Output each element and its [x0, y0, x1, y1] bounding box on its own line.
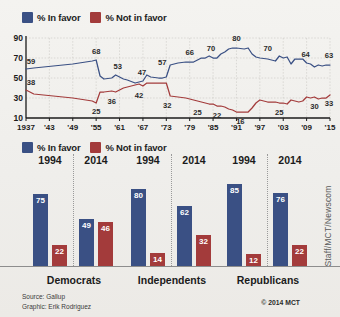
bar-group-label: Democrats	[30, 274, 118, 286]
agency-credit: Staff/MCT/Newscom	[322, 185, 332, 266]
data-point-label: 38	[27, 78, 35, 87]
x-axis-tick-label: '61	[114, 123, 125, 132]
legend-swatch-in-favor	[22, 12, 33, 23]
clipped-headline	[22, 0, 312, 6]
copyright-notice: © 2014 MCT	[261, 299, 300, 306]
data-point-label: 47	[138, 68, 146, 77]
x-axis-tick-label: '09	[301, 123, 312, 132]
bar-value-label: 32	[196, 237, 211, 246]
data-point-label: 32	[163, 101, 171, 110]
bar-year-column-2014: 20147622	[270, 170, 310, 266]
bar-in-favor[interactable]: 49	[79, 219, 94, 266]
line-chart-legend: % In favor % Not in favor	[22, 12, 166, 23]
data-point-label: 68	[92, 47, 100, 56]
data-point-label: 57	[158, 58, 166, 67]
bar-chart-baseline	[0, 266, 340, 267]
bar-group-label: Republicans	[224, 274, 312, 286]
bar-value-label: 22	[292, 247, 307, 256]
bar-not-in-favor[interactable]: 22	[52, 245, 67, 266]
y-axis-tick-label: 70	[14, 53, 24, 63]
bar-year-label: 1994	[30, 154, 70, 166]
bar-in-favor[interactable]: 85	[227, 184, 242, 266]
data-point-label: 42	[135, 91, 143, 100]
bar-group-independents: 1994801420146232Independents	[128, 170, 216, 266]
line-chart: 90705030101937'43'49'55'61'67'73'79'85'9…	[0, 30, 340, 136]
line-series-not-in-favor	[26, 83, 330, 112]
data-point-label: 80	[232, 34, 240, 43]
legend-swatch-not-in-favor	[90, 12, 101, 23]
bar-not-in-favor[interactable]: 22	[292, 245, 307, 266]
bar-value-label: 80	[131, 191, 146, 200]
data-point-label: 25	[92, 107, 101, 116]
year-divider	[73, 154, 74, 266]
bar-year-label: 2014	[174, 154, 214, 166]
bar-group-label: Independents	[128, 274, 216, 286]
bar-fill	[131, 189, 146, 266]
bar-in-favor[interactable]: 76	[273, 193, 288, 266]
data-point-label: 30	[310, 102, 318, 111]
data-point-label: 33	[325, 99, 333, 108]
year-divider	[171, 154, 172, 266]
bar-in-favor[interactable]: 75	[33, 194, 48, 266]
bar-value-label: 62	[177, 208, 192, 217]
y-axis-tick-label: 50	[14, 73, 24, 83]
bar-year-label: 2014	[270, 154, 310, 166]
x-axis-tick-label: '73	[161, 123, 172, 132]
legend-item-not-in-favor-bars: % Not in favor	[90, 142, 166, 153]
bar-value-label: 75	[33, 196, 48, 205]
bar-value-label: 49	[79, 221, 94, 230]
bar-year-label: 1994	[128, 154, 168, 166]
bar-year-column-1994: 19947522	[30, 170, 70, 266]
data-point-label: 70	[207, 44, 215, 53]
data-point-label: 25	[193, 108, 202, 117]
bar-year-column-1994: 19948512	[224, 170, 264, 266]
bar-year-column-1994: 19948014	[128, 170, 168, 266]
y-axis-tick-label: 10	[14, 113, 24, 123]
bar-not-in-favor[interactable]: 12	[246, 254, 261, 266]
bar-value-label: 76	[273, 195, 288, 204]
bar-year-label: 1994	[224, 154, 264, 166]
x-axis-tick-label: '85	[208, 123, 219, 132]
bar-fill	[227, 184, 242, 266]
x-axis-tick-label: '15	[325, 123, 336, 132]
legend-swatch-not-in-favor	[90, 142, 101, 153]
bar-value-label: 46	[98, 224, 113, 233]
legend-item-not-in-favor: % Not in favor	[90, 12, 166, 23]
bar-in-favor[interactable]: 62	[177, 206, 192, 266]
bar-value-label: 85	[227, 186, 242, 195]
bar-chart: 1994752220144946Democrats199480142014623…	[0, 158, 340, 288]
x-axis-tick-label: '03	[278, 123, 289, 132]
bar-not-in-favor[interactable]: 14	[150, 253, 165, 266]
data-point-label: 70	[263, 44, 271, 53]
bar-year-label: 2014	[76, 154, 116, 166]
y-axis-tick-label: 90	[14, 33, 24, 43]
data-point-label: 25	[275, 108, 284, 117]
bar-value-label: 14	[150, 255, 165, 264]
bar-year-column-2014: 20144946	[76, 170, 116, 266]
bar-chart-legend: % In favor % Not in favor	[22, 142, 166, 153]
bar-value-label: 22	[52, 247, 67, 256]
data-point-label: 22	[213, 111, 221, 120]
x-axis-tick-label: 1937	[17, 123, 35, 132]
x-axis-tick-label: '55	[91, 123, 102, 132]
bar-not-in-favor[interactable]: 32	[196, 235, 211, 266]
legend-label-not-in-favor: % Not in favor	[105, 12, 166, 23]
x-axis-tick-label: '43	[44, 123, 55, 132]
data-point-label: 36	[107, 97, 115, 106]
legend-item-in-favor-bars: % In favor	[22, 142, 80, 153]
line-chart-svg: 90705030101937'43'49'55'61'67'73'79'85'9…	[0, 30, 340, 136]
x-axis-tick-label: '79	[184, 123, 195, 132]
legend-item-in-favor: % In favor	[22, 12, 80, 23]
bar-year-column-2014: 20146232	[174, 170, 214, 266]
source-line: Source: Gallup	[22, 292, 91, 301]
infographic-sheet: % In favor % Not in favor 90705030101937…	[0, 0, 340, 317]
bar-not-in-favor[interactable]: 46	[98, 222, 113, 266]
bar-group-democrats: 1994752220144946Democrats	[30, 170, 118, 266]
data-point-label: 53	[113, 62, 121, 71]
bar-in-favor[interactable]: 80	[131, 189, 146, 266]
graphic-credit-line: Graphic: Erik Rodriguez	[22, 302, 91, 311]
x-axis-tick-label: '97	[254, 123, 265, 132]
data-point-label: 66	[185, 48, 193, 57]
bar-group-republicans: 1994851220147622Republicans	[224, 170, 312, 266]
legend-label-in-favor: % In favor	[37, 12, 80, 23]
